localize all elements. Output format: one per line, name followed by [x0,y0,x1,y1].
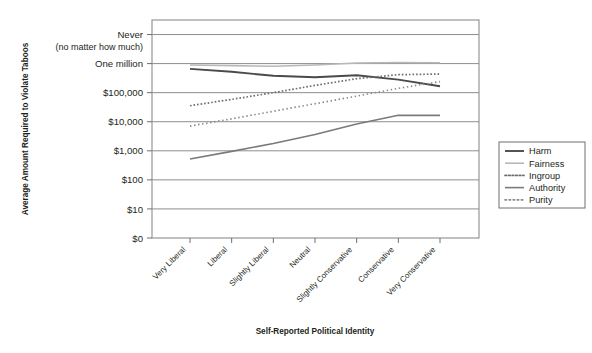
x-tick-label: Liberal [206,245,230,269]
legend-label-purity: Purity [529,195,553,205]
x-axis: Very LiberalLiberalSlightly LiberalNeutr… [151,238,440,304]
y-tick-label: $100 [122,174,143,185]
legend: HarmFairnessIngroupAuthorityPurity [499,142,585,208]
x-tick-label: Slightly Liberal [228,245,271,288]
x-axis-title: Self-Reported Political Identity [256,327,375,336]
x-tick-label: Conservative [356,245,396,285]
y-tick-label: $10 [127,204,143,215]
y-tick-label: $1,000 [114,145,143,156]
legend-label-harm: Harm [529,146,552,156]
legend-label-ingroup: Ingroup [529,171,560,181]
y-tick-label: $100,000 [103,87,143,98]
chart-container: $0$10$100$1,000$10,000$100,000One millio… [0,0,592,353]
y-axis-title: Average Amount Required to Violate Taboo… [21,42,30,215]
y-tick-label: $10,000 [108,116,143,127]
line-chart: $0$10$100$1,000$10,000$100,000One millio… [0,0,592,353]
y-tick-label: One million [95,58,143,69]
y-tick-label: Never [117,29,143,40]
legend-label-authority: Authority [529,183,566,193]
plot-area [152,20,479,238]
x-tick-label: Neutral [288,245,313,270]
y-tick-sublabel: (no matter how much) [55,42,143,52]
y-tick-label: $0 [132,233,143,244]
legend-label-fairness: Fairness [529,159,565,169]
x-tick-label: Very Liberal [151,245,187,281]
